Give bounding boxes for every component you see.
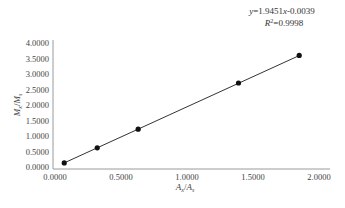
data-point bbox=[62, 160, 67, 165]
data-point bbox=[136, 127, 141, 132]
y-tick-label: 4.0000 bbox=[26, 38, 49, 48]
x-tick-label: 0.5000 bbox=[109, 172, 132, 182]
y-tick-label: 2.5000 bbox=[26, 85, 49, 95]
trendline-equation: y=1.9451x-0.0039 bbox=[248, 6, 315, 16]
data-point bbox=[236, 80, 241, 85]
x-axis-ticks: 0.00000.50001.00001.50002.0000 bbox=[43, 172, 330, 182]
y-tick-label: 1.0000 bbox=[26, 131, 49, 141]
x-axis-label: Ax/As bbox=[175, 182, 195, 193]
y-tick-label: 1.5000 bbox=[26, 116, 49, 126]
y-tick-label: 2.0000 bbox=[26, 100, 49, 110]
x-tick-label: 1.5000 bbox=[241, 172, 264, 182]
calibration-chart: 0.00000.50001.00001.50002.00002.50003.00… bbox=[0, 0, 345, 208]
x-tick-label: 1.0000 bbox=[175, 172, 198, 182]
y-tick-label: 0.5000 bbox=[26, 147, 49, 157]
y-tick-label: 3.0000 bbox=[26, 69, 49, 79]
x-tick-label: 2.0000 bbox=[307, 172, 330, 182]
y-tick-label: 0.0000 bbox=[26, 162, 49, 172]
y-axis-ticks: 0.00000.50001.00001.50002.00002.50003.00… bbox=[26, 38, 49, 172]
y-axis-label: Mx/Ms bbox=[12, 93, 23, 117]
r-squared-annotation: R2=0.9998 bbox=[264, 18, 304, 28]
data-point bbox=[95, 145, 100, 150]
data-point bbox=[297, 53, 302, 58]
x-tick-label: 0.0000 bbox=[43, 172, 66, 182]
y-tick-label: 3.5000 bbox=[26, 54, 49, 64]
